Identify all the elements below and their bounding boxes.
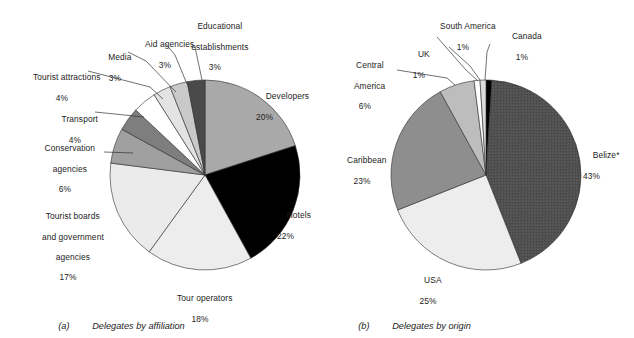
label-tourist-boards: Tourist boards and government agencies 1… (18, 201, 118, 303)
label-line1: Canada (512, 31, 542, 41)
label-line2: establishments (191, 42, 248, 52)
label-line1: Tourist attractions (33, 72, 101, 82)
label-central-america: Central America 6% (333, 50, 397, 132)
label-line1: Aid agencies (145, 39, 194, 49)
label-line1: Tour operators (177, 293, 232, 303)
label-belize: Belize* 43% (583, 140, 631, 201)
label-pct: 6% (333, 101, 397, 111)
figure-pie-charts: Educational establishments 3% Aid agenci… (0, 0, 634, 338)
label-caribbean: Caribbean 23% (330, 145, 394, 206)
label-line1: Caribbean (347, 155, 387, 165)
label-pct: 1% (424, 42, 502, 52)
label-pct: 20% (256, 112, 320, 122)
label-pct: 25% (406, 296, 450, 306)
caption-panel-b: (b)Delegates by origin (348, 311, 471, 338)
label-line1: Hotels (287, 210, 311, 220)
label-pct: 17% (18, 272, 118, 282)
label-line2: America (354, 81, 385, 91)
label-pct: 4% (16, 93, 108, 103)
label-line2: agencies (53, 164, 87, 174)
label-line1: Conservation (45, 143, 96, 153)
label-line1: Transport (62, 114, 98, 124)
label-pct: 6% (27, 184, 103, 194)
label-pct: 43% (583, 171, 631, 181)
label-line1: Belize* (593, 150, 620, 160)
label-line1: USA (424, 275, 442, 285)
panel-a-tag: (a) (58, 321, 92, 331)
label-line1: South America (440, 21, 496, 31)
pie-b-slices (391, 80, 581, 270)
label-line2: and government (42, 232, 104, 242)
label-line1: Developers (266, 91, 309, 101)
label-line1: UK (418, 49, 430, 59)
label-line1: Central (356, 60, 384, 70)
label-south-america: South America 1% (424, 11, 502, 72)
panel-b-tag: (b) (358, 321, 392, 331)
label-line1: Tourist boards (46, 211, 100, 221)
label-pct: 23% (330, 176, 394, 186)
label-pct: 1% (496, 52, 548, 62)
label-pct: 22% (277, 231, 329, 241)
label-pct: 3% (131, 60, 199, 70)
label-line1: Educational (197, 21, 242, 31)
caption-panel-a: (a)Delegates by affiliation (48, 311, 185, 338)
label-uk: UK 1% (404, 39, 434, 100)
label-pct: 1% (404, 70, 434, 80)
panel-b-caption-text: Delegates by origin (392, 321, 471, 331)
label-hotels: Hotels 22% (277, 200, 329, 261)
label-canada: Canada 1% (496, 21, 548, 82)
label-developers: Developers 20% (256, 81, 320, 142)
label-line1: Media (108, 52, 131, 62)
label-aid-agencies: Aid agencies 3% (131, 29, 199, 90)
panel-a-caption-text: Delegates by affiliation (92, 321, 184, 331)
label-line3: agencies (56, 252, 90, 262)
